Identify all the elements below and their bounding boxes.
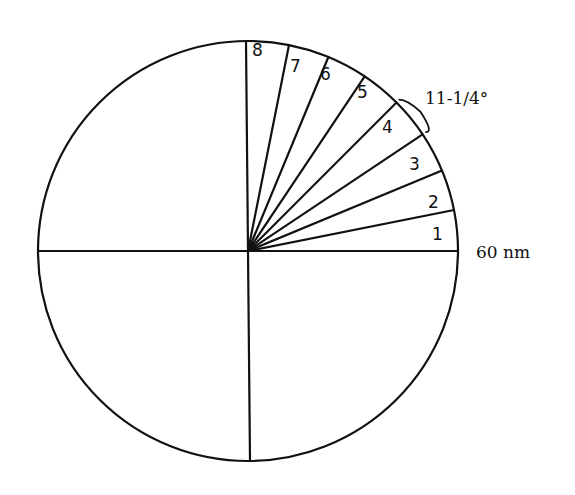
vertical-axis-top — [246, 41, 248, 251]
sector-labels: 12345678 — [252, 40, 443, 244]
sector-number-label: 4 — [382, 117, 393, 137]
sector-divider-line — [248, 103, 397, 252]
sector-angle-label: 11-1/4° — [425, 88, 488, 108]
sector-number-label: 6 — [320, 64, 331, 84]
sector-diagram: 12345678 11-1/4° 60 nm — [0, 0, 575, 495]
sector-number-label: 8 — [252, 40, 263, 60]
range-label: 60 nm — [476, 242, 530, 262]
sector-radials — [248, 45, 454, 251]
sector-number-label: 3 — [409, 154, 420, 174]
sector-number-label: 1 — [432, 224, 443, 244]
sector-number-label: 7 — [290, 56, 301, 76]
sector-number-label: 5 — [357, 82, 368, 102]
vertical-axis-bottom — [248, 251, 250, 461]
sector-number-label: 2 — [428, 192, 439, 212]
